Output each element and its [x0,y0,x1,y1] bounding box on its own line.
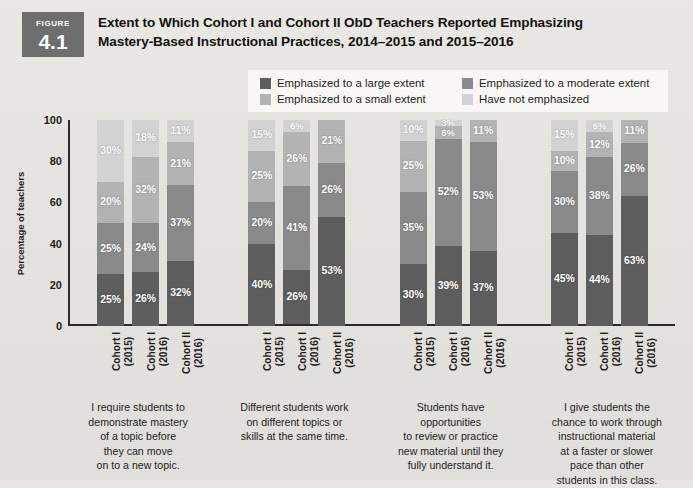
legend-item-label: Emphasized to a large extent [277,77,425,89]
bar-segment-label: 21% [170,159,191,169]
bar-segment[interactable]: 15% [248,120,275,151]
bar-segment-label: 25% [251,171,272,181]
bar-segment[interactable]: 30% [400,264,427,326]
stacked-bar[interactable]: 6%12%38%44% [586,120,613,326]
bar-segment[interactable]: 30% [97,120,124,182]
bar-segment[interactable]: 21% [318,120,345,163]
bar-segment[interactable]: 25% [97,274,124,326]
bar-segment[interactable]: 63% [621,196,648,326]
bar-segment-label: 10% [554,156,575,166]
legend-item-label: Emphasized to a small extent [277,93,426,105]
bar-segment[interactable]: 38% [586,157,613,235]
bar-segment-label: 11% [473,126,493,136]
category-caption-line: fully understand it. [377,458,525,473]
x-axis-tick-text: Cohort I(2015) [262,332,285,371]
bar-segment[interactable]: 41% [283,186,310,270]
bar-segment[interactable]: 45% [551,233,578,326]
x-axis-tick: Cohort I(2015) [551,330,578,396]
x-axis-tick: Cohort II(2016) [470,330,497,396]
x-axis-tick-text: Cohort I(2016) [448,332,471,371]
bar-segment[interactable]: 26% [283,132,310,186]
bar-segment-label: 53% [473,191,494,201]
bar-segment[interactable]: 25% [248,151,275,203]
bar-segment-label: 15% [554,130,575,140]
stacked-bar[interactable]: 15%25%20%40% [248,120,275,326]
bar-segment[interactable]: 40% [248,244,275,326]
stacked-bar[interactable]: 18%32%24%26% [132,120,159,326]
bar-segment[interactable]: 53% [318,217,345,326]
bar-segment[interactable]: 37% [470,251,497,326]
category-caption-line: of a topic before [64,429,212,444]
bar-segment-label: 6% [290,121,304,130]
bar-segment[interactable]: 20% [248,202,275,243]
bar-segment[interactable]: 26% [283,270,310,324]
stacked-bar[interactable]: 11%53%37% [470,120,497,326]
bar-segment[interactable]: 18% [132,120,159,157]
bar-segment[interactable]: 37% [167,185,194,260]
bar-segment[interactable]: 26% [318,163,345,217]
bar-segment[interactable]: 6% [283,120,310,132]
bar-segment[interactable]: 6% [435,126,462,138]
category-caption-line: opportunities [377,415,525,430]
figure-badge-number: 4.1 [38,31,67,52]
stacked-bar[interactable]: 30%20%25%25% [97,120,124,326]
bar-segment[interactable]: 30% [551,171,578,233]
bar-segment-label: 26% [135,294,156,304]
bar-segment-label: 26% [624,164,645,174]
category-caption-line: on to a new topic. [64,458,212,473]
stacked-bar[interactable]: 15%10%30%45% [551,120,578,326]
figure-badge-word: FIGURE [36,20,70,28]
legend-swatch-not-emphasized [462,94,473,105]
bar-segment[interactable]: 32% [167,261,194,326]
bar-segment[interactable]: 24% [132,223,159,272]
stacked-bar[interactable]: 6%26%41%26% [283,120,310,326]
category-caption-line: to review or practice [377,429,525,444]
bar-segment[interactable]: 35% [400,192,427,264]
category-caption-line: new material until they [377,444,525,459]
stacked-bar[interactable]: 10%25%35%30% [400,120,427,326]
x-axis-tick-text: Cohort I(2015) [413,332,436,371]
bar-segment[interactable]: 44% [586,235,613,326]
bar-segment[interactable]: 11% [470,120,497,142]
bar-segment[interactable]: 32% [132,157,159,223]
x-axis-tick-text: Cohort II(2016) [483,332,506,374]
bar-segment[interactable]: 10% [551,151,578,172]
figure-title-line-1: Extent to Which Cohort I and Cohort II O… [98,13,583,32]
bar-segment-label: 18% [135,133,156,143]
x-axis-tick-text: Cohort I(2016) [146,332,169,371]
bar-segment[interactable]: 11% [621,120,648,143]
bar-segment[interactable]: 25% [400,141,427,193]
bar-segment[interactable]: 52% [435,139,462,246]
legend-item: Emphasized to a large extent [260,77,456,89]
bar-group: 10%25%35%30%3%6%52%39%11%53%37% [373,120,524,326]
stacked-bar[interactable]: 11%26%63% [621,120,648,326]
x-axis-tick: Cohort II(2016) [167,330,194,396]
bar-segment[interactable]: 10% [400,120,427,141]
x-tick-group: Cohort I(2015)Cohort I(2016)Cohort II(20… [524,330,675,396]
bar-segment[interactable]: 21% [167,142,194,185]
stacked-bar[interactable]: 11%21%37%32% [167,120,194,326]
x-axis-tick-text: Cohort I(2015) [111,332,134,371]
bar-segment[interactable]: 20% [97,182,124,223]
bar-segment[interactable]: 15% [551,120,578,151]
bar-segment[interactable]: 6% [586,120,613,132]
bar-segment[interactable]: 39% [435,246,462,326]
bar-segment[interactable]: 11% [167,120,194,142]
x-axis-tick-text: Cohort I(2016) [297,332,320,371]
bar-segment-label: 25% [100,244,121,254]
bar-segment-label: 24% [135,243,156,253]
stacked-bar[interactable]: 3%6%52%39% [435,120,462,326]
stacked-bar[interactable]: 21%26%53% [318,120,345,326]
category-caption-line: students in this class. [533,473,681,488]
bar-segment[interactable]: 12% [586,132,613,157]
bar-segment[interactable]: 26% [132,272,159,326]
bar-segment-label: 12% [589,140,610,150]
bar-segment[interactable]: 25% [97,223,124,275]
x-axis-tick-text: Cohort I(2016) [599,332,622,371]
bar-segment-label: 15% [251,130,272,140]
bar-segment-label: 30% [403,290,424,300]
bar-segment[interactable]: 53% [470,142,497,250]
legend-item: Emphasized to a small extent [260,93,456,105]
bar-segment[interactable]: 26% [621,143,648,197]
